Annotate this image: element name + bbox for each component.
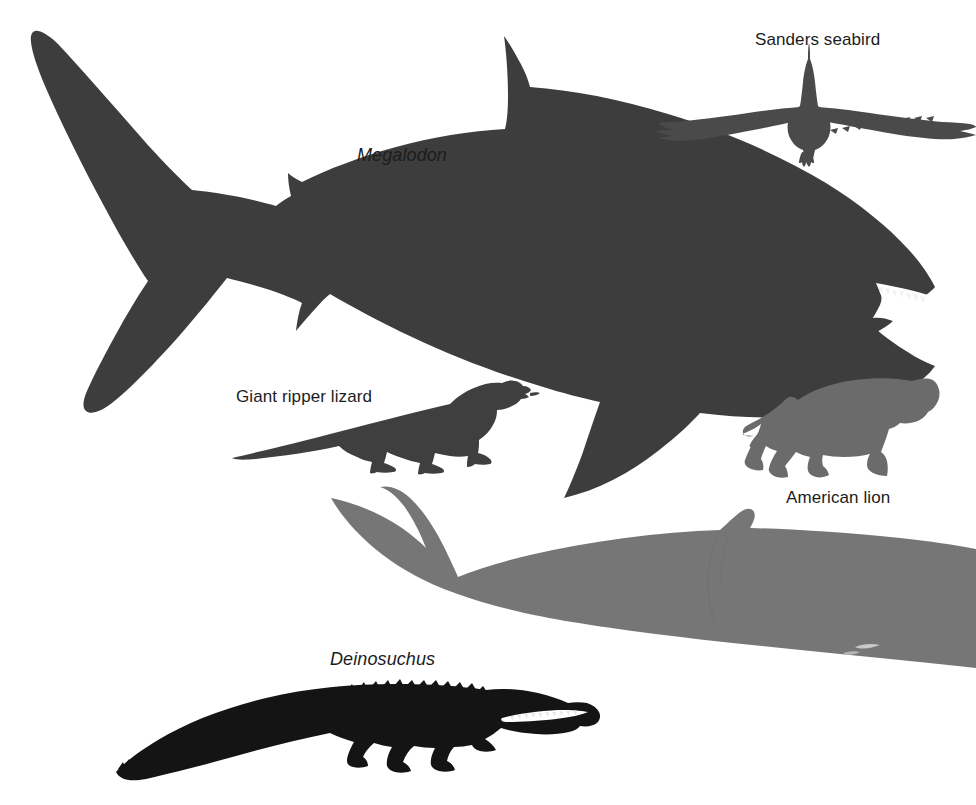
label-deinosuchus: Deinosuchus	[330, 650, 435, 668]
label-sanders-seabird: Sanders seabird	[755, 31, 880, 48]
deinosuchus-silhouette	[0, 0, 976, 805]
label-giant-ripper-lizard: Giant ripper lizard	[236, 388, 372, 405]
label-megalodon: Megalodon	[357, 146, 447, 164]
label-american-lion: American lion	[786, 489, 890, 506]
size-comparison-figure: Megalodon Sanders seabird Giant ripper l…	[0, 0, 976, 805]
